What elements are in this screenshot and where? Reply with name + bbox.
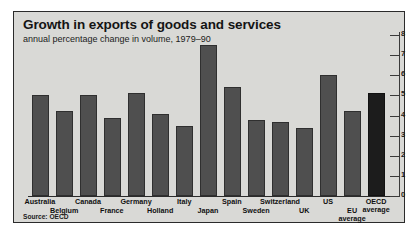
- y-tick-label: 1: [401, 171, 405, 179]
- y-tick-label: 5: [401, 90, 405, 98]
- plot-area: [28, 35, 388, 196]
- y-tick-line: [390, 75, 399, 76]
- y-tick-line: [390, 196, 399, 197]
- y-tick-line: [390, 136, 399, 137]
- chart-title: Growth in exports of goods and services: [23, 17, 281, 32]
- x-label-us: US: [323, 198, 333, 206]
- y-tick-label: 3: [401, 131, 405, 139]
- bar-rect: [200, 45, 217, 196]
- y-axis: 012345678: [390, 32, 418, 200]
- source-note: Source: OECD: [23, 213, 68, 220]
- y-tick-label: 7: [401, 50, 405, 58]
- x-label-spain: Spain: [222, 198, 242, 206]
- x-label-oecd-average: OECDaverage: [363, 198, 390, 214]
- x-label-holland: Holland: [147, 207, 173, 215]
- bar-rect: [344, 111, 361, 196]
- bar-rect: [176, 126, 193, 196]
- x-label-italy: Italy: [177, 198, 191, 206]
- y-tick-label: 6: [401, 70, 405, 78]
- bar-rect: [272, 122, 289, 196]
- y-tick-label: 0: [401, 191, 405, 199]
- x-label-france: France: [100, 207, 124, 215]
- bar-rect: [368, 93, 385, 196]
- y-tick-line: [390, 55, 399, 56]
- y-tick-line: [390, 35, 399, 36]
- bar-rect: [224, 87, 241, 196]
- bar-rect: [128, 93, 145, 196]
- y-tick-line: [390, 95, 399, 96]
- x-label-germany: Germany: [121, 198, 152, 206]
- bar-rect: [320, 75, 337, 196]
- bar-rect: [296, 128, 313, 196]
- bar-rect: [104, 118, 121, 196]
- bar-rect: [80, 95, 97, 196]
- x-label-japan: Japan: [198, 207, 219, 215]
- x-label-sweden: Sweden: [243, 207, 270, 215]
- x-label-uk: UK: [299, 207, 309, 215]
- y-tick-line: [390, 176, 399, 177]
- y-tick-line: [390, 156, 399, 157]
- x-label-switzerland: Switzerland: [260, 198, 300, 206]
- y-tick-line: [390, 116, 399, 117]
- y-tick-label: 8: [401, 30, 405, 38]
- bar-rect: [32, 95, 49, 196]
- y-tick-label: 2: [401, 151, 405, 159]
- y-tick-label: 4: [401, 111, 405, 119]
- x-axis-labels: AustraliaBelgiumCanadaFranceGermanyHolla…: [28, 197, 390, 224]
- x-label-australia: Australia: [25, 198, 56, 206]
- bar-rect: [56, 111, 73, 196]
- x-label-canada: Canada: [75, 198, 101, 206]
- chart-figure: Growth in exports of goods and services …: [13, 11, 405, 223]
- bar-rect: [152, 114, 169, 197]
- bar-rect: [248, 120, 265, 196]
